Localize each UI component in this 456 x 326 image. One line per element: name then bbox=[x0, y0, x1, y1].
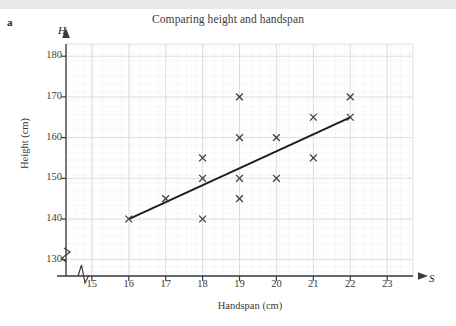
x-tick-label: 18 bbox=[188, 278, 218, 289]
y-tick-label: 160 bbox=[36, 131, 62, 142]
x-tick-label: 16 bbox=[114, 278, 144, 289]
x-axis-label: Handspan (cm) bbox=[100, 300, 400, 311]
x-tick-label: 21 bbox=[298, 278, 328, 289]
x-tick-label: 23 bbox=[372, 278, 402, 289]
x-tick-label: 15 bbox=[77, 278, 107, 289]
y-tick-label: 180 bbox=[36, 49, 62, 60]
y-axis-label: Height (cm) bbox=[19, 99, 30, 189]
x-tick-label: 19 bbox=[225, 278, 255, 289]
scatter-plot-figure: Height (cm) Handspan (cm) H S 1301401501… bbox=[0, 0, 456, 326]
x-tick-label: 17 bbox=[151, 278, 181, 289]
y-tick-label: 150 bbox=[36, 171, 62, 182]
y-tick-label: 130 bbox=[36, 253, 62, 264]
grid-layer bbox=[66, 44, 413, 276]
y-tick-label: 170 bbox=[36, 90, 62, 101]
x-tick-labels: 151617181920212223 bbox=[0, 278, 456, 296]
y-tick-label: 140 bbox=[36, 212, 62, 223]
x-tick-label: 20 bbox=[261, 278, 291, 289]
x-tick-label: 22 bbox=[335, 278, 365, 289]
